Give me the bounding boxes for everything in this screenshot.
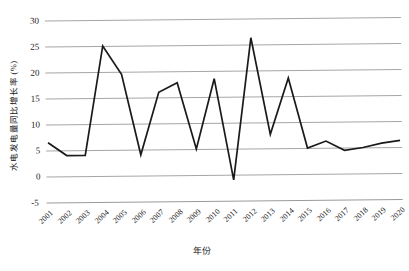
chart-container: 水电发电量同比增长率 (%) 30 25 20 15 10 5 0 -5 200…: [0, 0, 409, 271]
x-axis-title: 年份: [193, 244, 211, 257]
line-series-layer: [0, 0, 409, 271]
data-line-hydropower-growth: [47, 36, 400, 181]
chart-skew-wrapper: 水电发电量同比增长率 (%) 30 25 20 15 10 5 0 -5 200…: [0, 0, 409, 271]
